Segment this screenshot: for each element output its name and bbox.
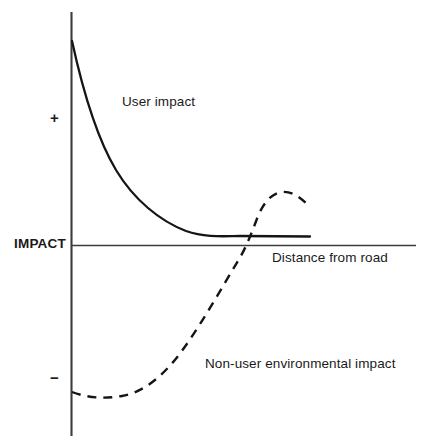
impact-distance-figure: IMPACT Distance from road User impact No… <box>0 0 426 448</box>
user-impact-curve <box>72 41 310 237</box>
x-axis-label: Distance from road <box>272 251 388 265</box>
y-axis-positive-tick-label: + <box>50 110 59 125</box>
non-user-impact-series-label: Non-user environmental impact <box>205 357 395 371</box>
plot-area <box>0 0 426 448</box>
y-axis-negative-tick-label: − <box>50 370 59 385</box>
y-axis-label: IMPACT <box>14 237 66 251</box>
user-impact-series-label: User impact <box>122 95 195 109</box>
